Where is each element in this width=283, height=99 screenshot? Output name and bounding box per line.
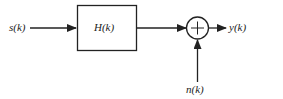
output-label: y(k) bbox=[229, 21, 246, 33]
input-label: s(k) bbox=[9, 21, 26, 33]
block-label: H(k) bbox=[94, 21, 114, 33]
block-diagram bbox=[0, 0, 283, 99]
noise-label: n(k) bbox=[186, 83, 204, 95]
